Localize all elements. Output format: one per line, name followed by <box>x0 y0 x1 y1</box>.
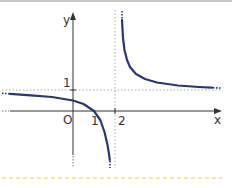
y-axis-arrow-icon <box>70 12 76 20</box>
hyperbola-chart: y x O 1 2 1 <box>0 0 232 188</box>
origin-label: O <box>63 113 72 127</box>
right-branch-curve <box>122 20 212 88</box>
x-tick-label-1: 1 <box>91 114 99 128</box>
x-axis-label: x <box>214 113 221 127</box>
x-tick-label-2: 2 <box>118 114 126 128</box>
y-tick-label-1: 1 <box>63 76 71 90</box>
y-axis-label: y <box>63 13 70 27</box>
